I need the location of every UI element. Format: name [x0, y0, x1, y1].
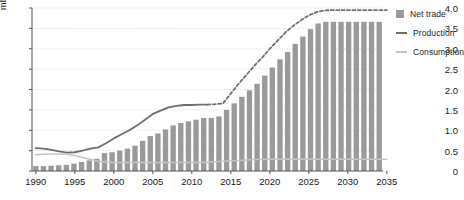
bar-net-trade	[178, 123, 183, 171]
bar-net-trade	[254, 84, 259, 171]
bar-net-trade	[125, 149, 130, 171]
bar-net-trade	[338, 22, 343, 171]
legend-item-label: Production	[413, 28, 455, 38]
bar-net-trade	[117, 151, 122, 171]
legend-item[interactable]: Consumption	[396, 47, 464, 57]
legend-item-label: Consumption	[413, 47, 464, 57]
bar-net-trade	[315, 23, 320, 171]
bar-net-trade	[193, 120, 198, 171]
bar-net-trade	[148, 136, 153, 171]
bar-net-trade	[262, 76, 267, 171]
bar-net-trade	[140, 141, 145, 171]
bar-net-trade	[79, 162, 84, 171]
legend-line-swatch-icon	[396, 51, 407, 53]
bar-net-trade	[247, 90, 252, 171]
bar-net-trade	[361, 22, 366, 171]
legend-bar-swatch-icon	[396, 10, 404, 18]
bar-net-trade	[87, 160, 92, 171]
legend-line-swatch-icon	[396, 32, 407, 34]
bar-net-trade	[270, 68, 275, 172]
bar-net-trade	[331, 22, 336, 171]
bar-net-trade	[346, 22, 351, 171]
bar-net-trade	[64, 165, 69, 171]
bar-net-trade	[170, 125, 175, 171]
legend-item[interactable]: Net trade	[396, 9, 446, 19]
bar-net-trade	[155, 134, 160, 171]
bar-net-trade	[300, 37, 305, 171]
bar-net-trade	[163, 129, 168, 171]
bar-net-trade	[277, 59, 282, 171]
bar-net-trade	[209, 118, 214, 171]
bar-net-trade	[308, 29, 313, 171]
bar-net-trade	[293, 44, 298, 171]
bar-net-trade	[216, 116, 221, 171]
bar-net-trade	[71, 164, 76, 171]
bar-net-trade	[377, 22, 382, 171]
bar-net-trade	[56, 165, 61, 171]
bar-net-trade	[48, 166, 53, 171]
bar-net-trade	[41, 166, 46, 171]
bar-net-trade	[369, 22, 374, 171]
legend-item[interactable]: Production	[396, 28, 455, 38]
bar-net-trade	[285, 52, 290, 171]
bar-net-trade	[186, 121, 191, 171]
legend-item-label: Net trade	[410, 9, 446, 19]
bar-net-trade	[33, 166, 38, 171]
bar-net-trade	[354, 22, 359, 171]
bar-net-trade	[132, 146, 137, 171]
bar-net-trade	[323, 22, 328, 171]
